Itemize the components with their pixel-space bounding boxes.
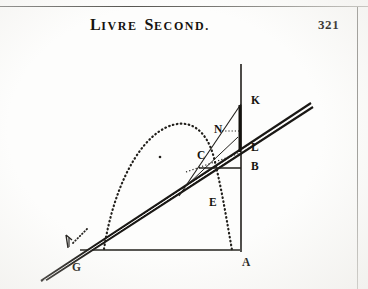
- figure-label-K: K: [251, 94, 260, 106]
- figure-container: K N C L B E A G: [0, 0, 368, 289]
- inclined-line-gap: [44, 105, 313, 281]
- inclined-line-inner: [46, 107, 313, 280]
- figure-label-N: N: [214, 123, 223, 135]
- figure-label-E: E: [209, 196, 217, 208]
- figure-label-B: B: [251, 160, 259, 172]
- dotted-trail-g: [73, 228, 88, 243]
- figure-label-A: A: [242, 256, 251, 268]
- figure-label-L: L: [251, 141, 259, 153]
- segment-k-c: [179, 104, 241, 196]
- focus-dot: [159, 156, 162, 159]
- segment-n-c: [184, 137, 238, 188]
- scanned-book-page: LIVRESECOND. 321: [0, 0, 368, 289]
- figure-label-C: C: [197, 149, 205, 161]
- inclined-line-outer: [41, 103, 311, 281]
- figure-label-G: G: [72, 261, 81, 273]
